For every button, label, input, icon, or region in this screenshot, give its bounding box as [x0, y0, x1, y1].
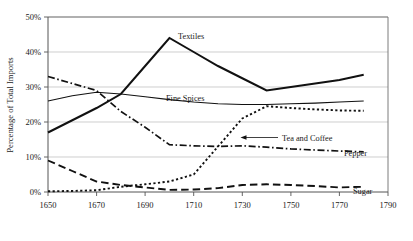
x-label-1710: 1710 — [185, 200, 202, 210]
x-label-1690: 1690 — [137, 200, 154, 210]
x-label-1790: 1790 — [380, 200, 397, 210]
x-label-1750: 1750 — [282, 200, 299, 210]
x-label-1770: 1770 — [331, 200, 348, 210]
series-label-sugar: Sugar — [353, 187, 373, 196]
series-label-fine-spices: Fine Spices — [166, 94, 205, 103]
x-label-1650: 1650 — [40, 200, 57, 210]
y-label-0: 0% — [30, 187, 41, 197]
chart-background — [0, 0, 413, 241]
x-label-1670: 1670 — [88, 200, 105, 210]
y-label-50: 50% — [25, 12, 41, 22]
x-label-1730: 1730 — [234, 200, 251, 210]
y-axis-title: Percentage of Total Imports — [5, 57, 15, 153]
y-label-10: 10% — [25, 152, 41, 162]
y-label-20: 20% — [25, 117, 41, 127]
chart-container: 50% 40% 30% 20% 10% 0% 1650 1670 1690 17… — [0, 0, 413, 241]
y-label-40: 40% — [25, 47, 41, 57]
series-label-textiles: Textiles — [178, 32, 204, 41]
line-chart: 50% 40% 30% 20% 10% 0% 1650 1670 1690 17… — [0, 0, 413, 241]
y-label-30: 30% — [25, 82, 41, 92]
series-label-tea-and-coffee: Tea and Coffee — [282, 134, 333, 143]
series-label-pepper: Pepper — [344, 149, 367, 158]
